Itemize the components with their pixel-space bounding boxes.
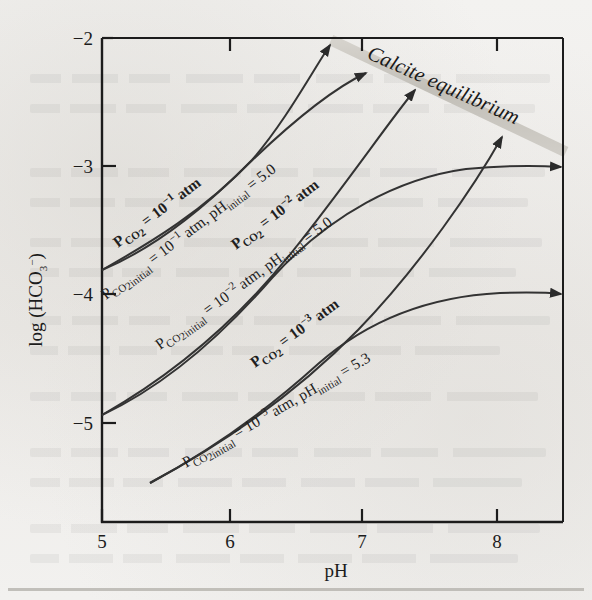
label-pco2-1e-3-initial: PCO2initial = 10−3 atm, pHinitial = 5.3 — [178, 347, 376, 475]
y-axis-title-prefix: log (HCO — [25, 271, 47, 346]
label-calcite-equilibrium: Calcite equilibrium — [364, 41, 523, 130]
y-axis-tick-labels: −2 −3 −4 −5 — [73, 28, 94, 434]
label-val-6: = 5.3 — [333, 349, 373, 382]
svg-text:PCO2initial = 10−3 atm, pHinit: PCO2initial = 10−3 atm, pHinitial = 5.3 — [178, 347, 376, 475]
svg-text:PCO2 = 10−3 atm: PCO2 = 10−3 atm — [246, 293, 345, 374]
x-tick-label-2: 7 — [357, 531, 367, 552]
label-tail-5: atm — [308, 295, 342, 326]
x-axis-ticks-top — [230, 38, 497, 51]
y-axis-title-suffix: ) — [25, 253, 47, 259]
calcite-equilibrium-text: Calcite equilibrium — [364, 41, 523, 130]
y-tick-label-3: −5 — [73, 413, 93, 434]
y-tick-label-2: −4 — [73, 284, 94, 305]
x-tick-label-0: 5 — [97, 531, 107, 552]
y-tick-label-0: −2 — [73, 28, 93, 49]
x-axis-ticks — [102, 509, 497, 522]
svg-text:log (HCO3−): log (HCO3−) — [25, 253, 49, 347]
x-axis-title: pH — [324, 560, 348, 581]
y-axis-ticks — [102, 38, 116, 423]
label-val-4: = 5.0 — [296, 213, 335, 248]
y-tick-label-1: −3 — [73, 156, 93, 177]
x-axis-tick-labels: 5 6 7 8 — [97, 531, 502, 552]
label-tail-1: atm — [170, 174, 204, 206]
label-tail-3: atm — [288, 176, 322, 208]
chart-svg: −2 −3 −4 −5 5 6 7 8 pH log (HCO3−) — [0, 0, 592, 600]
label-pco2-1e-3: PCO2 = 10−3 atm — [246, 293, 345, 374]
x-tick-label-3: 8 — [492, 531, 502, 552]
y-axis-title-sub: 3 — [37, 265, 49, 271]
figure-container: −2 −3 −4 −5 5 6 7 8 pH log (HCO3−) — [0, 0, 592, 600]
y-axis-title: log (HCO3−) — [25, 253, 49, 347]
x-tick-label-1: 6 — [225, 531, 235, 552]
